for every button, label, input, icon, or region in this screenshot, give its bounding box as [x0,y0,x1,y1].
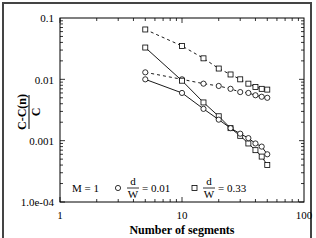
circle-marker-icon [265,152,270,157]
y-axis-numerator: C-C(n) [15,94,29,130]
x-tick-label: 10 [177,209,189,221]
square-marker-icon [259,86,264,91]
circle-marker-icon [201,81,206,86]
square-marker-icon [246,141,251,146]
circle-marker-icon [259,144,264,149]
circle-marker-icon [246,90,251,95]
square-marker-icon [253,84,258,89]
square-marker-icon [143,27,148,32]
square-marker-icon [246,81,251,86]
circle-marker-icon [201,106,206,111]
circle-marker-icon [238,89,243,94]
circle-marker-icon [265,95,270,100]
square-marker-icon [180,78,185,83]
x-tick-label: 1 [57,209,63,221]
square-marker-icon [253,148,258,153]
x-axis-title: Number of segments [129,223,234,237]
chart: 1.0e-04 0.001 0.01 0.1 1 10 100 Number o… [0,0,316,238]
y-tick-label: 1.0e-04 [21,196,55,208]
circle-marker-icon [253,93,258,98]
circle-marker-icon [216,83,221,88]
legend-annotation: M = 1 [72,182,99,194]
square-marker-icon [265,87,270,92]
y-tick-label: 0.001 [29,135,54,147]
x-tick-label: 100 [296,209,313,221]
square-marker-icon [143,45,148,50]
square-marker-icon [201,56,206,61]
circle-marker-icon [246,136,251,141]
circle-marker-icon [238,131,243,136]
circle-marker-icon [216,117,221,122]
legend-circle-icon [115,185,120,190]
legend-frac-num: d [206,175,212,187]
legend-square-icon [192,186,197,191]
y-tick-label: 0.1 [40,12,54,24]
circle-marker-icon [143,70,148,75]
square-marker-icon [228,72,233,77]
circle-marker-icon [143,77,148,82]
square-marker-icon [180,43,185,48]
circle-marker-icon [228,126,233,131]
circle-marker-icon [259,94,264,99]
data-series [143,27,270,168]
y-axis-denominator: C [29,108,43,117]
legend: M = 1 d W = 0.01 d W = 0.33 [72,175,247,200]
legend-frac-den: W [204,188,215,200]
y-tick-label: 0.01 [35,74,54,86]
square-marker-icon [238,77,243,82]
legend-frac-den: W [128,188,139,200]
legend-frac-num: d [130,175,136,187]
legend-value: = 0.33 [218,182,247,194]
legend-value: = 0.01 [142,182,170,194]
circle-marker-icon [179,90,184,95]
square-marker-icon [259,154,264,159]
y-axis-title: C-C(n) C [15,94,43,130]
circle-marker-icon [253,141,258,146]
square-marker-icon [216,66,221,71]
square-marker-icon [201,100,206,105]
circle-marker-icon [228,86,233,91]
square-marker-icon [265,163,270,168]
